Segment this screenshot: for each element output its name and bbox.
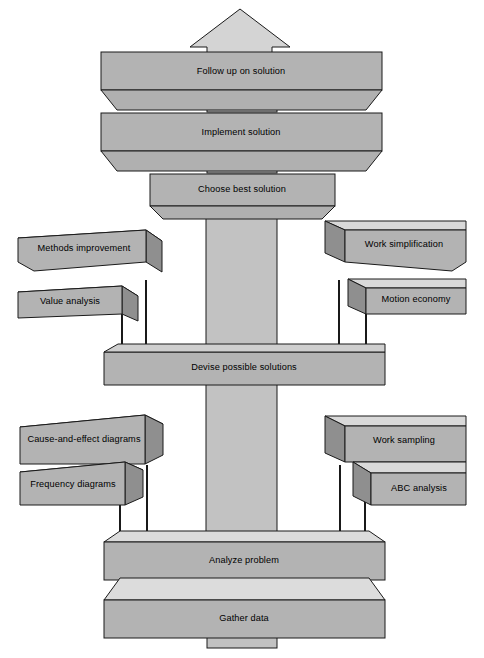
work-sampling-top [325, 416, 466, 426]
methods-improvement-side [146, 230, 162, 272]
step-analyze-label: Analyze problem [209, 555, 279, 565]
branch-box-work-simplification: Work simplification [325, 221, 466, 271]
step-gather-data: Gather data [104, 578, 385, 638]
diagram-canvas: Follow up on solution Implement solution… [0, 0, 484, 658]
step-choose-best-bevel [150, 206, 335, 219]
step-devise-top [104, 344, 385, 352]
branch-box-methods-improvement: Methods improvement [18, 230, 162, 272]
frequency-diagrams-side [125, 462, 143, 505]
step-choose-best-label: Choose best solution [198, 184, 286, 194]
methods-improvement-label: Methods improvement [38, 243, 131, 253]
branch-box-motion-economy: Motion economy [348, 279, 466, 314]
cause-and-effect-side [145, 415, 163, 464]
motion-economy-label: Motion economy [382, 294, 451, 304]
step-follow-up: Follow up on solution [101, 52, 382, 110]
motion-economy-top [348, 279, 466, 288]
step-implement-bevel [101, 151, 382, 171]
abc-analysis-top [353, 462, 466, 473]
abc-analysis-label: ABC analysis [391, 483, 447, 493]
step-implement-label: Implement solution [202, 127, 281, 137]
step-analyze-top [104, 531, 385, 542]
cause-and-effect-label: Cause-and-effect diagrams [27, 434, 140, 444]
step-choose-best: Choose best solution [150, 174, 335, 219]
work-simplification-label: Work simplification [365, 239, 443, 249]
branch-box-cause-and-effect-diagrams: Cause-and-effect diagrams [20, 415, 163, 464]
branch-box-frequency-diagrams: Frequency diagrams [20, 462, 143, 505]
step-follow-up-bevel [101, 90, 382, 110]
up-arrow-icon [190, 9, 290, 53]
step-implement: Implement solution [101, 113, 382, 171]
step-devise-label: Devise possible solutions [191, 362, 297, 372]
branch-box-work-sampling: Work sampling [325, 416, 466, 462]
step-devise: Devise possible solutions [104, 344, 385, 385]
branch-box-value-analysis: Value analysis [18, 286, 138, 321]
frequency-diagrams-label: Frequency diagrams [30, 479, 116, 489]
work-simplification-top [325, 221, 466, 230]
step-gather-data-top [104, 578, 385, 600]
step-follow-up-label: Follow up on solution [197, 66, 285, 76]
step-gather-data-label: Gather data [219, 613, 269, 623]
work-simplification-front [345, 230, 466, 271]
value-analysis-label: Value analysis [40, 296, 100, 306]
value-analysis-side [122, 286, 138, 321]
problem-solving-diagram: Follow up on solution Implement solution… [0, 0, 484, 658]
branch-box-abc-analysis: ABC analysis [353, 462, 466, 505]
work-sampling-label: Work sampling [373, 435, 435, 445]
step-analyze: Analyze problem [104, 531, 385, 580]
